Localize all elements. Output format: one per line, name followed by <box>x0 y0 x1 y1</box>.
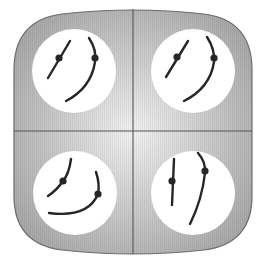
white-circle <box>33 151 117 235</box>
quadrant-bottom-right <box>151 151 235 235</box>
long-curve-dot <box>210 54 217 61</box>
long-curve-dot <box>91 54 98 61</box>
long-curve-dot <box>201 167 208 174</box>
white-circle <box>151 29 235 113</box>
short-curve-dot <box>173 53 180 60</box>
quadrant-bottom-left <box>33 151 117 235</box>
quadrant-top-left <box>32 29 116 113</box>
long-curve-dot <box>94 190 101 197</box>
short-curve-dot <box>168 177 175 184</box>
white-circle <box>151 151 235 235</box>
quadrant-diagram <box>0 0 262 264</box>
diagram-canvas <box>0 0 262 264</box>
short-curve-dot <box>55 54 62 61</box>
short-curve-dot <box>59 177 66 184</box>
quadrant-top-right <box>151 29 235 113</box>
white-circle <box>32 29 116 113</box>
